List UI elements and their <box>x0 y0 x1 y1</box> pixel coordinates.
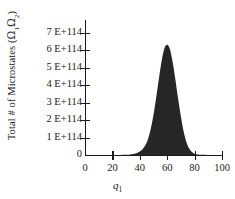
omega-1-symbol: Ω <box>5 31 17 40</box>
y-tick-label: 4 E+114 <box>18 79 82 89</box>
distribution-path <box>85 22 222 155</box>
y-tick-label: 7 E+114 <box>18 27 82 37</box>
x-tick-mark <box>222 151 223 160</box>
y-tick-label: 6 E+114 <box>18 44 82 54</box>
x-axis-title: q1 <box>0 179 235 194</box>
y-tick-label: 3 E+114 <box>18 97 82 107</box>
x-tick-label: 100 <box>202 162 235 173</box>
y-tick-label: 5 E+114 <box>18 62 82 72</box>
y-tick-label: 1 E+114 <box>18 132 82 142</box>
distribution-area-series <box>85 22 222 155</box>
y-axis-title-suffix: ) <box>6 11 17 15</box>
y-tick-label: 0 <box>18 149 82 159</box>
omega-2-symbol: Ω <box>5 18 17 27</box>
chart-figure: Total # of Microstates (Ω1Ω2) 01 E+1142 … <box>0 0 235 199</box>
x-axis-tick-labels: 020406080100 <box>0 162 235 178</box>
y-axis-title-prefix: Total # of Microstates ( <box>6 39 17 140</box>
y-tick-label: 2 E+114 <box>18 114 82 124</box>
x-axis-title-subscript: 1 <box>118 185 122 194</box>
